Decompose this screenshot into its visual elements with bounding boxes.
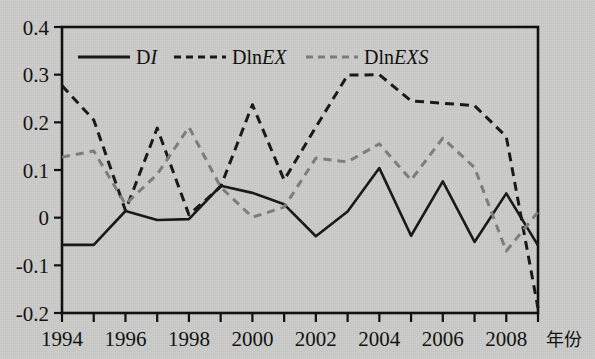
chart-legend: DIDlnEXDlnEXS xyxy=(78,46,428,68)
legend-label-DlnEX: DlnEX xyxy=(232,46,287,68)
series-line-DI xyxy=(62,168,538,245)
chart-series xyxy=(62,75,538,309)
plot-frame xyxy=(62,27,538,313)
legend-label-DlnEXS: DlnEXS xyxy=(364,46,428,68)
legend-label-DI: DI xyxy=(136,46,158,68)
y-tick-label: 0.4 xyxy=(23,16,50,40)
x-axis-title: 年份 xyxy=(546,329,582,350)
x-tick-label: 2008 xyxy=(485,327,527,351)
y-tick-label: 0.2 xyxy=(23,111,49,135)
x-tick-label: 1994 xyxy=(41,327,84,351)
line-chart-figure: DIDlnEXDlnEXS 0.40.30.20.10-0.1-0.219941… xyxy=(0,0,595,359)
x-tick-label: 2000 xyxy=(231,327,273,351)
series-line-DlnEX xyxy=(62,75,538,309)
y-tick-label: 0.3 xyxy=(23,63,49,87)
figure-page: DIDlnEXDlnEXS 0.40.30.20.10-0.1-0.219941… xyxy=(0,0,595,359)
x-tick-label: 1998 xyxy=(168,327,210,351)
x-tick-label: 2004 xyxy=(358,327,401,351)
y-tick-label: -0.2 xyxy=(16,302,49,326)
x-tick-label: 1996 xyxy=(104,327,146,351)
x-tick-label: 2006 xyxy=(422,327,464,351)
y-tick-label: 0 xyxy=(39,206,50,230)
x-tick-label: 2002 xyxy=(295,327,337,351)
chart-axes xyxy=(54,27,538,322)
chart-svg: DIDlnEXDlnEXS 0.40.30.20.10-0.1-0.219941… xyxy=(0,0,595,359)
y-tick-label: -0.1 xyxy=(16,254,49,278)
y-tick-label: 0.1 xyxy=(23,159,49,183)
